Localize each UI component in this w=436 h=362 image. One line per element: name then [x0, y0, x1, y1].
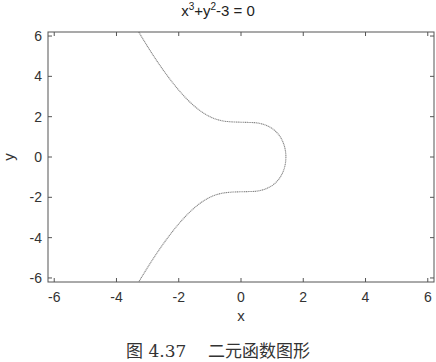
y-tick-label: 6 [34, 28, 42, 44]
x-tick-label: -6 [48, 289, 61, 305]
axes-box [48, 32, 434, 282]
axis-ticks [48, 32, 434, 282]
x-tick-label: -2 [173, 289, 186, 305]
x-tick-label: 4 [362, 289, 370, 305]
y-tick-label: 0 [34, 149, 42, 165]
y-axis-label: y [0, 153, 17, 161]
x-tick-label: -4 [110, 289, 123, 305]
x-tick-labels: -6-4-20246 [48, 289, 432, 305]
x-tick-label: 6 [424, 289, 432, 305]
y-tick-label: -6 [30, 270, 43, 286]
y-tick-label: 2 [34, 109, 42, 125]
figure-caption: 图 4.37 二元函数图形 [0, 337, 436, 362]
y-tick-labels: -6-4-20246 [30, 28, 43, 286]
y-tick-label: 4 [34, 68, 42, 84]
x-tick-label: 0 [237, 289, 245, 305]
x-tick-label: 2 [299, 289, 307, 305]
x-axis-label: x [237, 307, 245, 324]
y-tick-label: -2 [30, 189, 43, 205]
plot-area: -6-4-20246 -6-4-20246 x y [0, 0, 436, 335]
y-tick-label: -4 [30, 230, 43, 246]
implicit-curve [139, 32, 286, 282]
